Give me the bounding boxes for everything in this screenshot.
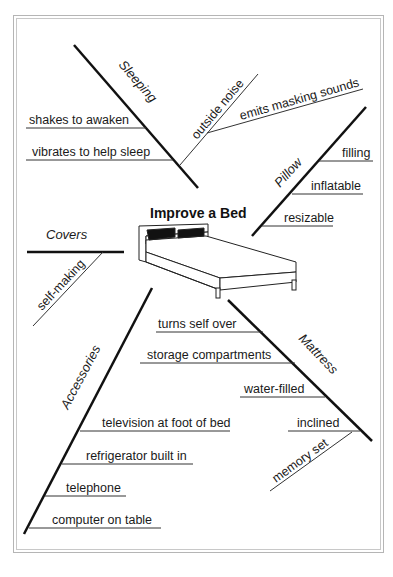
leaf-emits-masking-sounds: emits masking sounds: [238, 75, 361, 123]
leaf-telephone: telephone: [66, 481, 121, 495]
leaf-resizable: resizable: [284, 211, 334, 225]
leaf-inclined: inclined: [297, 416, 339, 430]
branch-label-mattress: Mattress: [296, 331, 342, 378]
leaf-self-making: self-making: [34, 257, 88, 313]
leaf-television: television at foot of bed: [102, 416, 231, 430]
branch-pillow: Pillow filling inflatable resizable: [252, 107, 373, 236]
mind-map: Improve a Bed Sleeping shakes to awaken …: [0, 0, 393, 577]
branch-label-sleeping: Sleeping: [116, 57, 161, 106]
leaf-filling: filling: [342, 146, 371, 160]
leaf-storage-compartments: storage compartments: [147, 348, 271, 362]
leaf-inflatable: inflatable: [311, 179, 361, 193]
central-title: Improve a Bed: [150, 205, 246, 221]
leaf-turns-self-over: turns self over: [158, 317, 237, 331]
branch-covers: Covers self-making: [27, 227, 124, 326]
branch-label-accessories: Accessories: [57, 342, 104, 412]
branch-label-pillow: Pillow: [271, 154, 306, 190]
leaf-water-filled: water-filled: [243, 382, 304, 396]
leaf-refrigerator: refrigerator built in: [86, 449, 187, 463]
leaf-vibrates-to-help-sleep: vibrates to help sleep: [32, 145, 150, 159]
leaf-computer-on-table: computer on table: [52, 513, 152, 527]
branch-label-covers: Covers: [46, 227, 88, 242]
bed-icon: [139, 224, 296, 298]
leaf-memory-set: memory set: [270, 435, 331, 485]
leaf-shakes-to-awaken: shakes to awaken: [29, 113, 129, 127]
